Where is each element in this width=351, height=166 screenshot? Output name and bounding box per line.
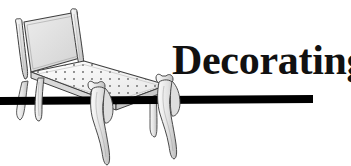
page-title: Decorating <box>172 36 347 84</box>
decorating-banner: Decorating <box>0 0 351 166</box>
